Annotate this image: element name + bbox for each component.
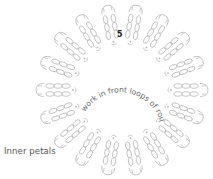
petal <box>101 134 121 176</box>
chart-caption: Inner petals <box>4 146 56 156</box>
petal <box>73 12 104 53</box>
petal <box>168 84 208 97</box>
instruction-text: work in front loops of round 3 <box>0 0 167 123</box>
petal <box>124 134 144 176</box>
petal <box>124 4 144 46</box>
petal <box>139 127 170 168</box>
petal <box>36 84 76 97</box>
petal <box>73 127 104 168</box>
petal <box>101 4 121 46</box>
instruction-arc-text: work in front loops of round 3 <box>0 0 167 123</box>
petal <box>139 12 170 53</box>
round-number: 5 <box>117 30 123 39</box>
